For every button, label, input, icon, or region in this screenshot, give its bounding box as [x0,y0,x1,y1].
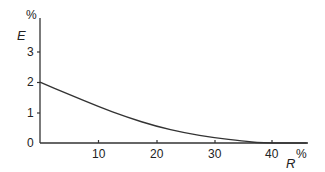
y-unit-label: % [26,9,37,21]
x-tick-label-30: 30 [208,148,221,160]
x-tick-label-40: 40 [265,148,278,160]
y-axis-title: E [17,30,26,42]
x-tick-label-10: 10 [92,148,105,160]
y-tick-label-3: 3 [27,46,34,58]
y-tick-label-1: 1 [27,107,34,119]
x-unit-label: % [296,148,307,160]
x-axis-title: R [286,158,295,170]
x-tick-label-20: 20 [150,148,163,160]
y-tick-label-2: 2 [27,76,34,88]
data-line [40,82,307,143]
y-tick-label-0: 0 [27,137,34,149]
